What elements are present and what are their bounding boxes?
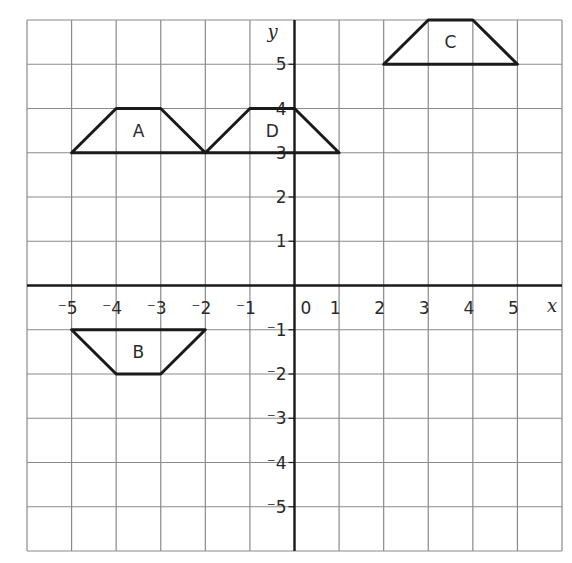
y-tick-label: ⁻3 <box>267 408 287 428</box>
y-tick-label: ⁻1 <box>267 320 287 340</box>
y-axis-label: y <box>266 21 278 42</box>
x-tick-label: 0 <box>301 298 312 318</box>
x-tick-label: ⁻2 <box>191 298 211 318</box>
x-tick-label: ⁻3 <box>147 298 167 318</box>
x-tick-label: ⁻4 <box>102 298 122 318</box>
shape-label-d: D <box>266 121 279 141</box>
y-tick-label: ⁻5 <box>267 497 287 517</box>
x-tick-label: 4 <box>463 298 474 318</box>
x-tick-label: ⁻5 <box>58 298 78 318</box>
y-tick-label: 2 <box>276 187 287 207</box>
x-tick-label: 2 <box>374 298 385 318</box>
y-tick-label: 5 <box>276 54 287 74</box>
x-tick-label: ⁻1 <box>236 298 256 318</box>
shape-label-a: A <box>133 121 145 141</box>
shape-label-c: C <box>445 32 457 52</box>
y-tick-label: ⁻4 <box>267 453 287 473</box>
x-tick-label: 3 <box>419 298 430 318</box>
y-tick-label: 1 <box>276 231 287 251</box>
x-tick-label: 1 <box>330 298 341 318</box>
x-axis-label: x <box>547 295 557 316</box>
x-tick-label: 5 <box>508 298 519 318</box>
coordinate-grid: ⁻5⁻4⁻3⁻2⁻1012345⁻5⁻4⁻3⁻2⁻112345xy ABCD <box>0 0 572 563</box>
axes <box>27 20 562 551</box>
tick-labels: ⁻5⁻4⁻3⁻2⁻1012345⁻5⁻4⁻3⁻2⁻112345xy <box>58 21 557 517</box>
shape-label-b: B <box>133 342 145 362</box>
y-tick-label: ⁻2 <box>267 364 287 384</box>
